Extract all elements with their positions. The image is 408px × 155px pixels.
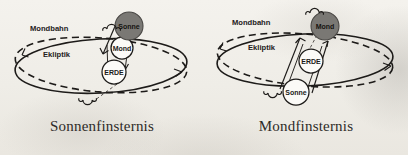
- body-erde-label: ERDE: [301, 58, 321, 65]
- caption-sonnenfinsternis: Sonnenfinsternis: [0, 118, 204, 135]
- label-mondbahn: Mondbahn: [30, 24, 69, 33]
- shadow-arrowhead-right: [323, 41, 329, 47]
- figure-panels: ERDE Mond Sonne Mondbahn Ekliptik Sonnen…: [0, 0, 408, 155]
- body-erde-label: ERDE: [104, 69, 124, 76]
- caption-mondfinsternis: Mondfinsternis: [204, 118, 408, 135]
- body-sonne-label: Sonne: [285, 89, 306, 96]
- label-mondbahn: Mondbahn: [232, 18, 271, 27]
- panel-lunar-eclipse: Sonne ERDE Mond Mondbahn Ekliptik Mondfi…: [204, 0, 408, 155]
- ecliptic-orbit-solid: [14, 35, 189, 98]
- label-ekliptik: Ekliptik: [248, 43, 276, 52]
- orbit-direction-arrow-left: [220, 43, 227, 52]
- shadow-arrowhead-left: [296, 38, 306, 43]
- solar-eclipse-diagram: ERDE Mond Sonne Mondbahn Ekliptik: [0, 0, 204, 126]
- descending-node-icon: [264, 91, 282, 97]
- panel-solar-eclipse: ERDE Mond Sonne Mondbahn Ekliptik Sonnen…: [0, 0, 204, 155]
- body-mond-label: Mond: [113, 45, 132, 52]
- label-ekliptik: Ekliptik: [43, 50, 71, 59]
- body-mond-label: Mond: [316, 23, 335, 30]
- body-sonne-label: Sonne: [118, 23, 139, 30]
- descending-node-icon: [79, 98, 97, 104]
- lunar-eclipse-diagram: Sonne ERDE Mond Mondbahn Ekliptik: [204, 0, 408, 126]
